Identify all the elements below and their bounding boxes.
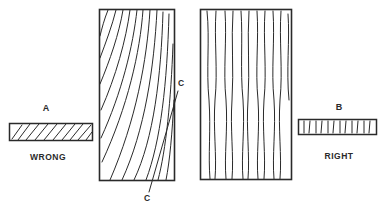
board-b-cross-section [299,120,377,135]
panel-flat-sawn [100,10,179,193]
board-b-letter: B [336,102,343,112]
callout-c-top: C [178,78,184,88]
wood-grain-diagram: A WRONG B RIGHT C C [0,0,388,205]
callout-c-bottom: C [144,193,150,203]
board-a-cross-section [10,124,93,141]
board-a-verdict: WRONG [30,152,66,162]
board-a-letter: A [43,103,50,113]
callout-c-leader [149,91,178,192]
panel-quarter-sawn [201,10,292,180]
board-b-verdict: RIGHT [325,151,354,161]
